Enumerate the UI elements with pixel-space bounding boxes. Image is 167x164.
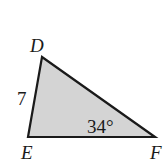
vertex-label-d: D [29, 35, 44, 56]
triangle-diagram: D E F 7 34° [0, 0, 167, 164]
vertex-label-f: F [149, 142, 162, 163]
angle-label-f: 34° [87, 116, 114, 137]
side-label-de: 7 [17, 88, 27, 109]
vertex-label-e: E [20, 142, 33, 163]
